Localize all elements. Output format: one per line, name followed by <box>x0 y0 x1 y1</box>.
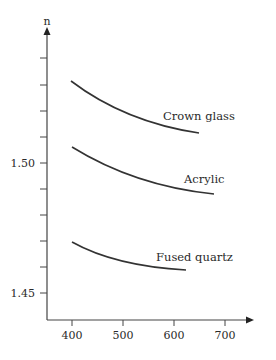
series-label-acrylic: Acrylic <box>183 172 225 186</box>
y-axis-label: n <box>43 15 50 28</box>
x-axis-arrow-icon <box>246 317 254 324</box>
series-acrylic-line <box>72 147 214 194</box>
x-tick-label-600: 600 <box>164 329 185 342</box>
series-label-crown-glass: Crown glass <box>163 109 235 123</box>
y-axis-arrow-icon <box>44 27 51 35</box>
refractive-index-chart: n 1.50 1.45 400 500 600 700 Crown glass … <box>0 0 276 360</box>
y-tick-label-1-50: 1.50 <box>11 157 36 170</box>
series-crown-glass-line <box>71 81 199 133</box>
series-label-fused-quartz: Fused quartz <box>156 250 233 264</box>
x-tick-label-400: 400 <box>62 329 83 342</box>
x-tick-label-500: 500 <box>113 329 134 342</box>
x-axis: 400 500 600 700 <box>47 317 254 343</box>
x-tick-label-700: 700 <box>215 329 236 342</box>
y-axis: n 1.50 1.45 <box>11 15 51 320</box>
y-tick-label-1-45: 1.45 <box>11 287 36 300</box>
